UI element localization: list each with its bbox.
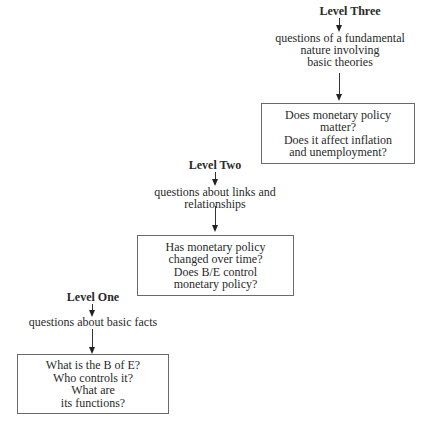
level-two-box-text: Has monetary policy changed over time? D… (166, 241, 266, 291)
level-one-box-text: What is the B of E? Who controls it? Wha… (46, 359, 140, 409)
level-one-box: What is the B of E? Who controls it? Wha… (17, 354, 169, 414)
level-one-description: questions about basic facts (17, 316, 169, 328)
level-one-title: Level One (53, 291, 133, 304)
level-three-box-text: Does monetary policy matter? Does it aff… (284, 109, 392, 159)
level-two-title: Level Two (175, 159, 255, 172)
level-two-box: Has monetary policy changed over time? D… (137, 235, 294, 296)
level-three-title: Level Three (310, 5, 390, 18)
level-three-box: Does monetary policy matter? Does it aff… (261, 103, 415, 164)
level-three-description: questions of a fundamental nature involv… (265, 32, 415, 68)
